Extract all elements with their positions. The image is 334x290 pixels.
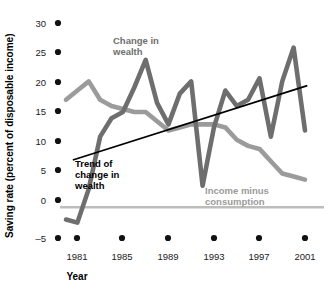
- series-change-in-wealth: [66, 48, 305, 223]
- x-tick-dot-1985: [119, 235, 125, 241]
- y-tick-dot-30: [55, 20, 61, 26]
- y-tick-dot-minus-5: [55, 235, 61, 241]
- y-tick-dot-15: [55, 108, 61, 114]
- x-tick-dot-1981: [74, 235, 80, 241]
- x-tick-dot-1997: [256, 235, 262, 241]
- x-tick-label-2001: 2001: [294, 251, 315, 262]
- y-tick-dot-20: [55, 79, 61, 85]
- y-tick-label-15: 15: [35, 106, 46, 117]
- y-tick-label-30: 30: [35, 18, 46, 29]
- y-axis-title: Saving rate (percent of disposable incom…: [4, 34, 15, 239]
- annotation-trend-line2: change in: [75, 169, 120, 180]
- annotation-trend-line3: wealth: [74, 180, 105, 191]
- y-tick-dot-0: [55, 197, 61, 203]
- x-tick-label-1993: 1993: [203, 251, 224, 262]
- saving-rate-line-chart: Saving rate (percent of disposable incom…: [0, 0, 334, 290]
- annotation-change-in-wealth-line2: wealth: [112, 46, 143, 57]
- x-tick-label-1989: 1989: [157, 251, 178, 262]
- annotation-change-in-wealth-line1: Change in: [113, 35, 159, 46]
- y-tick-label-minus-5: –5: [35, 233, 46, 244]
- x-tick-dot-1989: [165, 235, 171, 241]
- annotation-trend-line1: Trend of: [75, 158, 113, 169]
- y-tick-dot-10: [55, 138, 61, 144]
- y-tick-label-20: 20: [35, 77, 46, 88]
- chart-container: Saving rate (percent of disposable incom…: [0, 0, 334, 290]
- x-axis-title: Year: [66, 271, 87, 282]
- x-tick-label-1981: 1981: [66, 251, 87, 262]
- x-tick-label-1997: 1997: [248, 251, 269, 262]
- y-tick-label-5: 5: [41, 165, 46, 176]
- annotation-income-minus-consumption-line1: Income minus: [205, 185, 269, 196]
- x-tick-dot-2001: [302, 235, 308, 241]
- y-tick-label-25: 25: [35, 47, 46, 58]
- x-tick-label-1985: 1985: [111, 251, 132, 262]
- x-tick-dot-1993: [211, 235, 217, 241]
- annotation-income-minus-consumption-line2: consumption: [205, 196, 265, 207]
- y-tick-label-0: 0: [41, 195, 46, 206]
- y-tick-dot-25: [55, 49, 61, 55]
- y-tick-label-10: 10: [35, 136, 46, 147]
- y-tick-dot-5: [55, 167, 61, 173]
